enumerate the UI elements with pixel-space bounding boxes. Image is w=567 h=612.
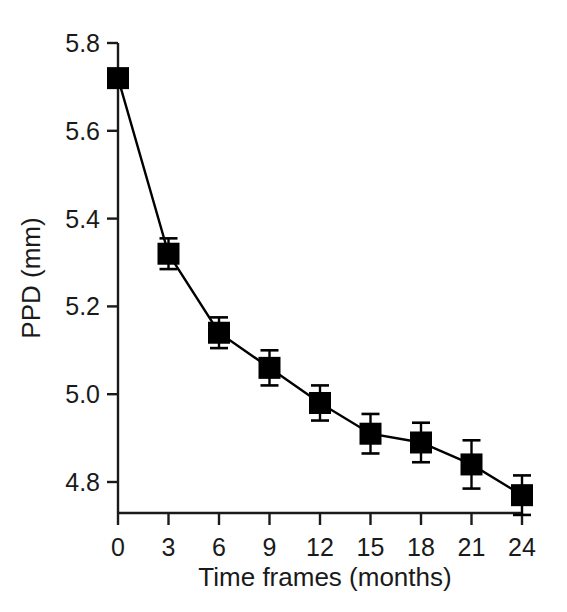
data-point-marker — [259, 357, 281, 379]
line-chart: 5.85.65.45.25.04.8 03691215182124 PPD (m… — [0, 0, 567, 612]
y-tick-label: 5.2 — [65, 292, 100, 320]
x-tick-label: 12 — [306, 533, 334, 561]
y-axis-tick-labels: 5.85.65.45.25.04.8 — [65, 29, 100, 496]
data-point-marker — [158, 243, 180, 265]
data-point-marker — [309, 392, 331, 414]
data-point-marker — [410, 431, 432, 453]
data-point-marker — [511, 484, 533, 506]
x-axis-tick-labels: 03691215182124 — [111, 533, 536, 561]
data-point-marker — [461, 453, 483, 475]
y-axis-title: PPD (mm) — [16, 217, 46, 338]
data-series-line — [118, 78, 522, 495]
data-point-marker — [107, 67, 129, 89]
data-point-marker — [360, 423, 382, 445]
x-axis-ticks — [118, 513, 522, 525]
x-tick-label: 15 — [357, 533, 385, 561]
y-tick-label: 4.8 — [65, 468, 100, 496]
y-tick-label: 5.6 — [65, 117, 100, 145]
x-axis-title: Time frames (months) — [198, 562, 451, 592]
y-tick-label: 5.0 — [65, 380, 100, 408]
y-tick-label: 5.4 — [65, 205, 100, 233]
x-tick-label: 21 — [458, 533, 486, 561]
x-tick-label: 3 — [162, 533, 176, 561]
x-tick-label: 0 — [111, 533, 125, 561]
data-point-marker — [208, 322, 230, 344]
x-tick-label: 18 — [407, 533, 435, 561]
x-tick-label: 24 — [508, 533, 536, 561]
x-tick-label: 9 — [263, 533, 277, 561]
error-bars — [109, 69, 531, 515]
chart-figure: 5.85.65.45.25.04.8 03691215182124 PPD (m… — [0, 0, 567, 612]
y-axis-ticks — [107, 43, 118, 482]
y-tick-label: 5.8 — [65, 29, 100, 57]
x-tick-label: 6 — [212, 533, 226, 561]
